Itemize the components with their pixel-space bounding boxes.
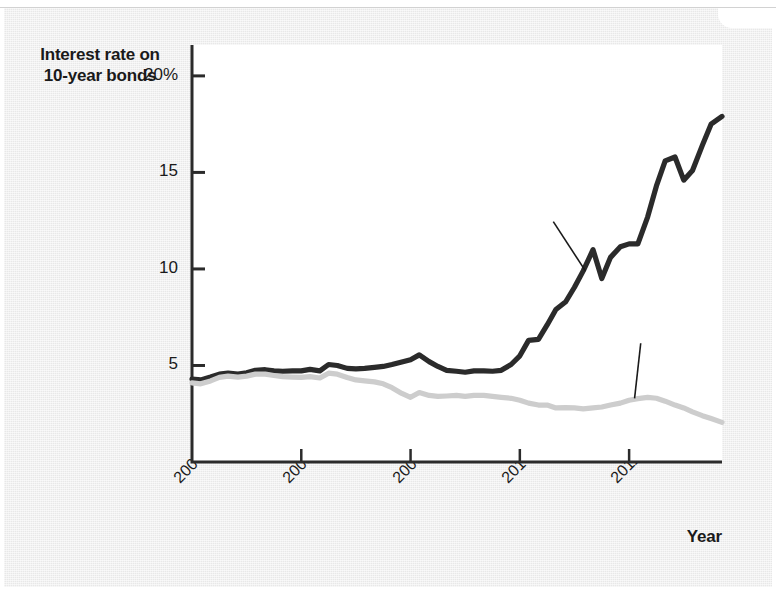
plot-canvas: [0, 0, 776, 591]
figure-panel: Interest rate on 10-year bonds Year 5101…: [0, 0, 776, 591]
